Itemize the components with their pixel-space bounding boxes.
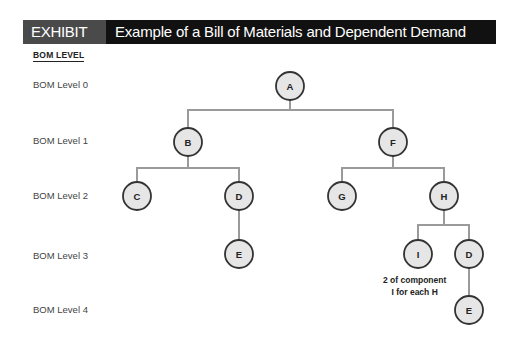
svg-text:D: D: [236, 191, 243, 202]
svg-text:G: G: [338, 191, 345, 202]
annotation-line-2: I for each H: [383, 286, 446, 298]
node-i: I: [404, 240, 432, 268]
svg-text:E: E: [466, 305, 472, 316]
svg-text:E: E: [236, 249, 242, 260]
node-d1: D: [225, 182, 253, 210]
svg-text:F: F: [390, 137, 396, 148]
node-a: A: [276, 72, 304, 100]
node-d2: D: [455, 240, 483, 268]
node-b: B: [174, 128, 202, 156]
svg-text:A: A: [287, 81, 294, 92]
node-f: F: [379, 128, 407, 156]
svg-text:C: C: [134, 191, 141, 202]
node-e1: E: [225, 240, 253, 268]
node-h: H: [430, 182, 458, 210]
svg-text:I: I: [417, 249, 420, 260]
node-e2: E: [455, 296, 483, 324]
svg-text:H: H: [441, 191, 448, 202]
svg-text:D: D: [466, 249, 473, 260]
node-g: G: [328, 182, 356, 210]
quantity-annotation: 2 of component I for each H: [383, 274, 446, 298]
svg-text:B: B: [185, 137, 192, 148]
node-c: C: [123, 182, 151, 210]
annotation-line-1: 2 of component: [383, 274, 446, 286]
